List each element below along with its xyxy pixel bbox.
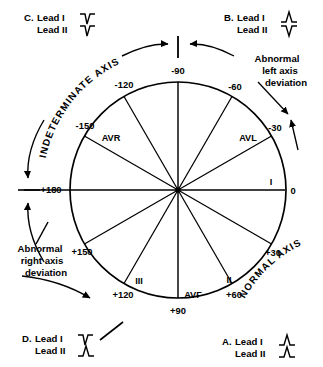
case-d-lead-2-name: Lead II bbox=[35, 345, 66, 356]
lead-label-group: AVR AVL I II AVF III bbox=[102, 133, 273, 300]
case-d-lead-1-waveform-negative bbox=[78, 335, 93, 345]
degree-label-minus-120: -120 bbox=[115, 79, 134, 90]
right-deviation-tick bbox=[36, 222, 48, 244]
right-dev-line-2: right axis bbox=[21, 255, 64, 266]
case-b-label: B. bbox=[224, 12, 234, 23]
degree-label-plus-90: +90 bbox=[170, 305, 186, 316]
indeterminate-axis-pointer-group bbox=[122, 36, 234, 58]
hexaxial-axis-diagram: -90 -120 -150 +180 +150 +120 +90 +60 +30… bbox=[0, 0, 323, 367]
case-b-lead-1-waveform-positive bbox=[281, 12, 297, 22]
figure-canvas: -90 -120 -150 +180 +150 +120 +90 +60 +30… bbox=[0, 0, 323, 367]
lead-label-i: I bbox=[270, 177, 273, 187]
case-c-lead-1-waveform-negative bbox=[80, 14, 95, 24]
left-dev-line-3: deviation bbox=[265, 77, 307, 88]
degree-label-plus-180: +180 bbox=[40, 184, 61, 195]
right-dev-line-1: Abnormal bbox=[18, 243, 63, 254]
left-dev-line-1: Abnormal bbox=[255, 53, 300, 64]
case-c-lead-2-waveform-negative bbox=[80, 26, 95, 36]
degree-label-zero: 0 bbox=[290, 185, 295, 196]
case-a-lead-2-name: Lead II bbox=[235, 348, 266, 359]
case-c-label: C. bbox=[24, 12, 34, 23]
case-c-lead-1-name: Lead I bbox=[37, 12, 65, 23]
case-b-lead-1-name: Lead I bbox=[237, 12, 265, 23]
case-a-lead-2-waveform-positive bbox=[279, 347, 295, 357]
abnormal-right-axis-deviation: Abnormal right axis deviation bbox=[18, 243, 68, 278]
degree-label-minus-30: -30 bbox=[268, 122, 282, 133]
degree-label-minus-150: -150 bbox=[76, 120, 95, 131]
indeterminate-arrow-left bbox=[122, 44, 168, 56]
case-d-lead-1-name: Lead I bbox=[35, 333, 63, 344]
right-dev-line-3: deviation bbox=[25, 267, 67, 278]
case-c: C. Lead I Lead II bbox=[24, 12, 95, 36]
lead-label-ii: II bbox=[226, 275, 231, 285]
lead-label-avl: AVL bbox=[239, 133, 257, 143]
case-d: D. Lead I Lead II bbox=[22, 333, 94, 356]
case-d-lead-2-waveform-positive bbox=[78, 346, 94, 356]
left-dev-line-2: left axis bbox=[262, 65, 298, 76]
degree-label-plus-120: +120 bbox=[112, 289, 133, 300]
case-d-pointer bbox=[100, 322, 123, 340]
case-a-lead-1-name: Lead I bbox=[235, 336, 263, 347]
degree-label-plus-150: +150 bbox=[71, 246, 92, 257]
case-b-lead-2-name: Lead II bbox=[237, 24, 268, 35]
case-d-label: D. bbox=[22, 333, 32, 344]
circle-center-point bbox=[175, 187, 180, 192]
case-b-lead-2-waveform-negative bbox=[281, 26, 297, 36]
case-c-lead-2-name: Lead II bbox=[37, 24, 68, 35]
indeterminate-arrow-right bbox=[190, 44, 234, 56]
left-deviation-arrow-2 bbox=[291, 120, 298, 150]
lead-label-avr: AVR bbox=[102, 133, 121, 143]
degree-label-minus-60: -60 bbox=[228, 81, 242, 92]
case-a: A. Lead I Lead II bbox=[222, 335, 295, 359]
lead-label-iii: III bbox=[135, 276, 143, 286]
lead-label-avf: AVF bbox=[184, 290, 202, 300]
degree-label-minus-90: -90 bbox=[171, 65, 185, 76]
right-deviation-arrow bbox=[22, 276, 90, 298]
case-a-label: A. bbox=[222, 336, 232, 347]
abnormal-left-axis-deviation: Abnormal left axis deviation bbox=[255, 53, 308, 88]
case-b: B. Lead I Lead II bbox=[224, 12, 297, 36]
case-a-lead-1-waveform-positive bbox=[279, 335, 295, 345]
